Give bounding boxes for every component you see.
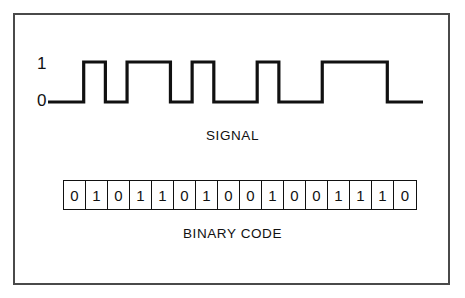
binary-cell: 0: [108, 181, 130, 209]
binary-cell: 1: [262, 181, 284, 209]
binary-cell: 0: [284, 181, 306, 209]
binary-code-caption: BINARY CODE: [0, 226, 465, 241]
waveform-polyline: [48, 62, 423, 102]
binary-cell: 1: [86, 181, 108, 209]
binary-cell: 0: [394, 181, 416, 209]
signal-caption: SIGNAL: [0, 128, 465, 143]
binary-cell: 1: [196, 181, 218, 209]
binary-cell: 0: [240, 181, 262, 209]
binary-cell: 1: [152, 181, 174, 209]
binary-cell: 0: [218, 181, 240, 209]
signal-waveform-icon: [48, 50, 423, 114]
binary-cell: 1: [130, 181, 152, 209]
figure-root: 1 0 SIGNAL 0101101001001110 BINARY CODE: [0, 0, 465, 298]
binary-cell: 1: [350, 181, 372, 209]
binary-code-row: 0101101001001110: [63, 180, 417, 210]
axis-label-high: 1: [37, 55, 46, 72]
binary-cell: 0: [306, 181, 328, 209]
binary-cell: 1: [328, 181, 350, 209]
axis-label-low: 0: [37, 92, 46, 109]
binary-cell: 1: [372, 181, 394, 209]
binary-cell: 0: [64, 181, 86, 209]
binary-cell: 0: [174, 181, 196, 209]
